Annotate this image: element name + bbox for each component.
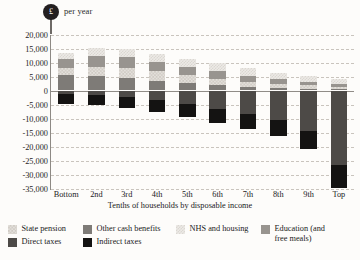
y-tick-label: -35,000 <box>1 184 48 193</box>
legend-item-other-cash[interactable]: Other cash benefits <box>83 224 161 234</box>
bar-segment-state-pension <box>58 68 75 75</box>
y-tick-label: -20,000 <box>1 142 48 151</box>
bar-column[interactable] <box>300 35 317 189</box>
bar-segment-nhs-housing <box>58 53 75 60</box>
bar-segment-state-pension <box>331 87 348 90</box>
bar-segment-education <box>300 82 317 86</box>
x-tick-bottom: Bottom <box>54 190 79 199</box>
y-tick-label: 15,000 <box>1 44 48 53</box>
bar-segment-direct-taxes <box>300 91 317 132</box>
y-tick-label: -30,000 <box>1 170 48 179</box>
bar-segment-education <box>149 62 166 71</box>
y-tick-label: 20,000 <box>1 30 48 39</box>
y-tick-label: 0 <box>1 86 48 95</box>
bar-segment-nhs-housing <box>300 76 317 82</box>
bar-segment-direct-taxes <box>179 91 196 105</box>
legend-swatch-education-icon <box>261 225 270 234</box>
bar-segment-nhs-housing <box>270 73 287 79</box>
bar-column[interactable] <box>270 35 287 189</box>
bar-column[interactable] <box>149 35 166 189</box>
legend-label-indirect-taxes: Indirect taxes <box>97 237 142 247</box>
x-tick-3rd: 3rd <box>121 190 132 199</box>
bar-segment-direct-taxes <box>270 91 287 120</box>
x-tick-top: Top <box>332 190 345 199</box>
bar-segment-other-cash <box>58 75 75 91</box>
bar-segment-education <box>331 84 348 87</box>
y-tick-label: -10,000 <box>1 114 48 123</box>
bar-segment-state-pension <box>119 68 136 79</box>
y-axis-tick-labels: 20,00015,00010,0005,0000-5,000-10,000-15… <box>0 35 48 190</box>
bar-segment-indirect-taxes <box>240 114 257 129</box>
bar-segment-other-cash <box>149 81 166 90</box>
bar-segment-other-cash <box>88 76 105 91</box>
legend-item-indirect-taxes[interactable]: Indirect taxes <box>83 237 141 247</box>
chart-root: £ per year 20,00015,00010,0005,0000-5,00… <box>0 0 360 260</box>
x-tick-7th: 7th <box>243 190 254 199</box>
bar-segment-indirect-taxes <box>270 120 287 136</box>
bar-segment-indirect-taxes <box>209 109 226 123</box>
x-tick-9th: 9th <box>303 190 314 199</box>
bar-segment-education <box>240 76 257 82</box>
x-tick-8th: 8th <box>273 190 284 199</box>
bar-segment-education <box>209 71 226 79</box>
bar-column[interactable] <box>88 35 105 189</box>
bar-column[interactable] <box>119 35 136 189</box>
bar-segment-indirect-taxes <box>331 165 348 188</box>
bar-column[interactable] <box>179 35 196 189</box>
legend-label-other-cash: Other cash benefits <box>97 224 161 234</box>
bar-segment-direct-taxes <box>240 91 257 114</box>
plot-area <box>51 35 354 189</box>
currency-badge-stem <box>50 18 51 34</box>
legend-swatch-nhs-housing-icon <box>176 225 185 234</box>
y-tick-label: -15,000 <box>1 128 48 137</box>
legend-row-primary: State pensionOther cash benefitsNHS and … <box>8 224 356 237</box>
bar-segment-indirect-taxes <box>149 100 166 112</box>
bar-segment-direct-taxes <box>149 91 166 101</box>
bar-segment-nhs-housing <box>240 68 257 75</box>
legend-item-nhs-housing[interactable]: NHS and housing <box>176 224 249 234</box>
legend-swatch-state-pension-icon <box>8 225 17 234</box>
bar-segment-education <box>270 79 287 84</box>
bar-segment-state-pension <box>240 82 257 87</box>
legend-item-state-pension[interactable]: State pension <box>8 224 66 234</box>
bar-segment-other-cash <box>179 83 196 90</box>
legend-item-direct-taxes[interactable]: Direct taxes <box>8 237 61 247</box>
bar-series-container <box>51 35 354 189</box>
chart-legend: State pensionOther cash benefitsNHS and … <box>8 224 356 250</box>
bar-segment-indirect-taxes <box>300 131 317 149</box>
bar-segment-state-pension <box>179 75 196 83</box>
bar-segment-nhs-housing <box>149 54 166 63</box>
legend-row-secondary: Direct taxesIndirect taxes <box>8 237 356 250</box>
bar-segment-nhs-housing <box>179 59 196 67</box>
bar-segment-direct-taxes <box>331 91 348 165</box>
y-tick-label: -5,000 <box>1 100 48 109</box>
y-tick-label: 10,000 <box>1 58 48 67</box>
legend-swatch-direct-taxes-icon <box>8 238 17 247</box>
bar-column[interactable] <box>209 35 226 189</box>
y-tick-label: -25,000 <box>1 156 48 165</box>
bar-column[interactable] <box>58 35 75 189</box>
bar-segment-nhs-housing <box>331 79 348 84</box>
bar-segment-indirect-taxes <box>58 94 75 104</box>
y-tick-label: 5,000 <box>1 72 48 81</box>
bar-segment-state-pension <box>270 84 287 88</box>
x-tick-2nd: 2nd <box>90 190 102 199</box>
bar-segment-indirect-taxes <box>179 104 196 117</box>
bar-segment-state-pension <box>300 85 317 88</box>
legend-swatch-indirect-taxes-icon <box>83 238 92 247</box>
x-axis-title: Tenths of households by disposable incom… <box>0 201 360 210</box>
bar-segment-nhs-housing <box>88 48 105 56</box>
legend-label-direct-taxes: Direct taxes <box>22 237 62 247</box>
bar-column[interactable] <box>331 35 348 189</box>
bar-segment-indirect-taxes <box>119 97 136 108</box>
x-tick-4th: 4th <box>152 190 163 199</box>
unit-label: per year <box>64 6 92 16</box>
bar-segment-other-cash <box>119 78 136 90</box>
bar-segment-indirect-taxes <box>88 95 105 105</box>
legend-label-state-pension: State pension <box>22 224 66 234</box>
currency-badge-icon: £ <box>43 4 59 20</box>
bar-segment-state-pension <box>209 79 226 85</box>
bar-segment-education <box>119 57 136 68</box>
bar-segment-state-pension <box>88 67 105 76</box>
bar-column[interactable] <box>240 35 257 189</box>
